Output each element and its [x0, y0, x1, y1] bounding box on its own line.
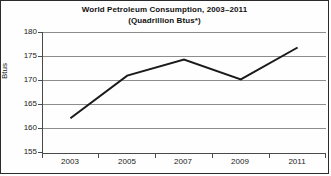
- y-tick-label-170: 170: [24, 76, 37, 84]
- y-tick-label-165: 165: [24, 100, 37, 108]
- x-tick-label-2003: 2003: [61, 157, 79, 166]
- x-tick-label-2005: 2005: [118, 157, 136, 166]
- y-tick-label-155: 155: [24, 148, 37, 156]
- chart-title-block: World Petroleum Consumption, 2003–2011 (…: [1, 4, 328, 26]
- x-tick-label-2009: 2009: [231, 157, 249, 166]
- y-tick-label-175: 175: [24, 52, 37, 60]
- x-tick-label-2011: 2011: [288, 157, 305, 166]
- y-tick-label-160: 160: [24, 124, 37, 132]
- chart-subtitle: (Quadrillion Btus*): [1, 15, 328, 26]
- y-tick-label-180: 180: [24, 28, 37, 36]
- x-axis-labels: 2003 2005 2007 2009 2011: [42, 157, 326, 169]
- x-axis-line: [42, 153, 326, 154]
- chart-title: World Petroleum Consumption, 2003–2011: [1, 4, 328, 15]
- series-polyline: [70, 48, 297, 119]
- chart-figure: World Petroleum Consumption, 2003–2011 (…: [0, 0, 329, 174]
- y-axis-labels: 180 175 170 165 160 155: [1, 32, 37, 153]
- x-tick-label-2007: 2007: [174, 157, 192, 166]
- data-series-line: [42, 32, 326, 153]
